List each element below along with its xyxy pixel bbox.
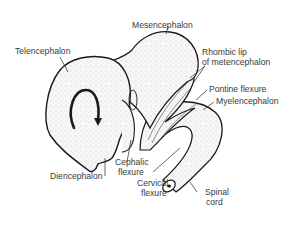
label-spinal-cord-line1: Spinal (205, 187, 229, 197)
label-rhombic-lip-line2: of metencephalon (202, 57, 270, 67)
label-cephalic-flexure-line2: flexure (118, 167, 144, 177)
label-myelencephalon: Myelencephalon (216, 96, 279, 106)
label-spinal-cord-line2: cord (206, 197, 223, 207)
label-rhombic-lip-line1: Rhombic lip (202, 47, 247, 57)
label-cervical-flexure-line2: flexure (141, 188, 167, 198)
label-pontine-flexure: Pontine flexure (209, 84, 266, 94)
label-diencephalon: Diencephalon (50, 171, 103, 181)
label-cervical-flexure-line1: Cervical (137, 178, 168, 188)
label-mesencephalon: Mesencephalon (132, 20, 193, 30)
telencephalon-shape (46, 57, 130, 172)
label-telencephalon: Telencephalon (15, 46, 70, 56)
diencephalon-shape (122, 100, 134, 152)
label-cephalic-flexure-line1: Cephalic (115, 157, 148, 167)
